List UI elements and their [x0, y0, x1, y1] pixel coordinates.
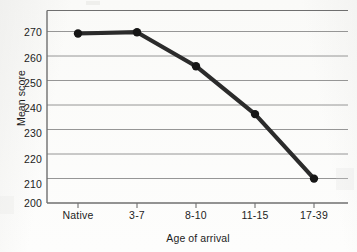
data-point-11-15 — [251, 110, 259, 118]
scan-smudge-left — [0, 196, 14, 214]
scan-artifacts — [0, 1, 354, 214]
data-point-3-7 — [133, 28, 141, 36]
scan-smudge-right — [336, 168, 354, 190]
gridlines — [47, 32, 348, 179]
scan-smudge-top — [86, 1, 100, 5]
data-point-17-39 — [310, 174, 318, 182]
x-tick-marks — [78, 203, 314, 208]
axis-spines — [47, 11, 348, 204]
data-point-8-10 — [192, 62, 200, 70]
plot-area — [0, 0, 357, 252]
chart-figure: Mean score Age of arrival 270 260 250 24… — [0, 0, 357, 252]
data-point-native — [74, 29, 82, 37]
